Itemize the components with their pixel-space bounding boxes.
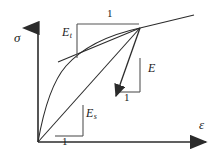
unit-label-top: 1 (107, 8, 113, 19)
figure-canvas (0, 0, 224, 157)
tangent-modulus-label: Et (62, 26, 72, 40)
elastic-modulus-label: E (148, 62, 155, 74)
secant-modulus-subscript: s (93, 112, 97, 121)
y-axis-label: σ (14, 31, 20, 44)
unload-line (116, 28, 140, 96)
unit-label-bottom: 1 (62, 136, 68, 147)
secant-modulus-label: Es (86, 107, 97, 121)
secant-line (38, 28, 140, 142)
tangent-line-right (140, 15, 194, 28)
elastic-modulus-base: E (148, 61, 155, 75)
x-axis-label: ε (199, 118, 204, 131)
tangent-modulus-subscript: t (69, 31, 72, 40)
unit-label-right: 1 (124, 92, 130, 103)
stress-strain-figure: σ ε Et Es E 1 1 1 (0, 0, 224, 157)
